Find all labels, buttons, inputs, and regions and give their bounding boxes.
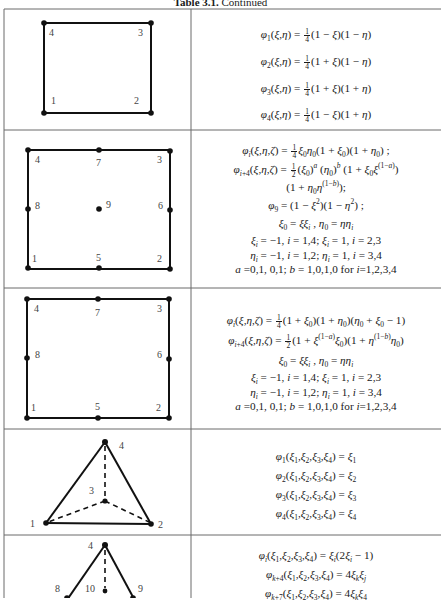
formula-line: φ4(ξ1,ξ2,ξ3,ξ4) = ξ4 — [191, 507, 441, 520]
svg-text:7: 7 — [95, 307, 100, 318]
formula-line: φk+4(ξ1,ξ2,ξ3,ξ4) = 4ξkξj — [191, 568, 441, 581]
svg-text:4: 4 — [88, 540, 93, 551]
svg-text:1: 1 — [32, 253, 37, 264]
svg-text:2: 2 — [156, 402, 161, 413]
formula-line: ηi = −1, i = 1,2; ηi = 1, i = 3,4 — [191, 386, 441, 399]
svg-text:8: 8 — [55, 583, 60, 594]
svg-text:2: 2 — [157, 253, 162, 264]
formula-line: φk+7(ξ1,ξ2,ξ3,ξ4) = 4ξkξ4 — [191, 587, 441, 600]
formula-line: a =0,1, 0,1; b = 1,0,1,0 for i=1,2,3,4 — [191, 400, 441, 413]
formula-line: φi(ξ,η,ζ) = 14ξ0η0(1 + ξ0)(1 + η0) ; — [191, 144, 441, 159]
formula-line: ξi = −1, i = 1,4; ξi = 1, i = 2,3 — [191, 234, 441, 247]
svg-text:7: 7 — [96, 157, 101, 168]
formula-line: φi(ξ1,ξ2,ξ3,ξ4) = ξi(2ξi − 1) — [191, 549, 441, 562]
svg-text:9: 9 — [106, 199, 111, 210]
svg-text:5: 5 — [95, 401, 100, 412]
formula-line: ηi = −1, i = 1,2; ηi = 1, i = 3,4 — [191, 249, 441, 262]
svg-text:8: 8 — [35, 200, 40, 211]
formula-line: ξ0 = ξξi , η0 = ηηi — [191, 217, 441, 230]
formula-line: φ4(ξ,η) = 14(1 − ξ)(1 + η) — [191, 108, 441, 123]
svg-text:4: 4 — [34, 303, 39, 314]
formula-line: φ9 = (1 − ξ2)(1 − η2) ; — [191, 199, 441, 212]
svg-text:4: 4 — [49, 27, 54, 38]
svg-text:5: 5 — [96, 252, 101, 263]
svg-text:6: 6 — [157, 349, 162, 360]
svg-text:1: 1 — [51, 95, 56, 106]
svg-text:1: 1 — [31, 402, 36, 413]
element-diagram-quad9: 4 7 3 8 9 6 1 5 2 — [25, 147, 173, 272]
svg-text:2: 2 — [134, 95, 139, 106]
formula-line: φi+4(ξ,η,ζ) = 12(ξ0)a (η0)b (1 + ξ0ξ(1−a… — [191, 163, 441, 178]
element-diagram-quad8: 4 7 3 8 6 1 5 2 — [24, 296, 172, 421]
svg-text:10: 10 — [85, 583, 95, 594]
svg-text:3: 3 — [157, 154, 162, 165]
element-diagram-quad4: 4 3 1 2 — [41, 20, 154, 116]
formula-line: φ3(ξ1,ξ2,ξ3,ξ4) = ξ3 — [191, 488, 441, 501]
svg-text:4: 4 — [35, 154, 40, 165]
formula-line: φ2(ξ,η) = 14(1 + ξ)(1 − η) — [191, 55, 441, 70]
svg-text:3: 3 — [157, 303, 162, 314]
element-diagram-tet10: 4 8 10 9 — [55, 540, 143, 598]
formula-line: ξ0 = ξξi , η0 = ηηi — [191, 354, 441, 367]
svg-text:4: 4 — [119, 440, 124, 451]
svg-text:8: 8 — [35, 349, 40, 360]
svg-text:6: 6 — [158, 200, 163, 211]
formula-line: φ1(ξ,η) = 14(1 − ξ)(1 − η) — [191, 28, 441, 43]
formula-line: φ2(ξ1,ξ2,ξ3,ξ4) = ξ2 — [191, 469, 441, 482]
formula-line: a =0,1, 0,1; b = 1,0,1,0 for i=1,2,3,4 — [191, 263, 441, 276]
svg-text:3: 3 — [138, 27, 143, 38]
formula-line: φi+4(ξ,η,ζ) = 12(1 + ξ(1−a)ξ0)(1 + η(1−b… — [191, 334, 441, 349]
svg-text:2: 2 — [158, 519, 163, 530]
formula-line: ξi = −1, i = 1,4; ξi = 1, i = 2,3 — [191, 371, 441, 384]
element-diagram-tet4: 4 3 1 2 — [30, 439, 163, 530]
formula-line: (1 + η0η(1−b)); — [191, 181, 441, 194]
svg-text:3: 3 — [89, 485, 94, 496]
formula-line: φ3(ξ,η) = 14(1 + ξ)(1 + η) — [191, 82, 441, 97]
formula-line: φi(ξ,η,ζ) = 14(1 + ξ0)(1 + η0)(η0 + ξ0 −… — [191, 314, 441, 329]
svg-text:9: 9 — [138, 583, 143, 594]
formula-line: φ1(ξ1,ξ2,ξ3,ξ4) = ξ1 — [191, 450, 441, 463]
svg-text:1: 1 — [30, 518, 35, 529]
